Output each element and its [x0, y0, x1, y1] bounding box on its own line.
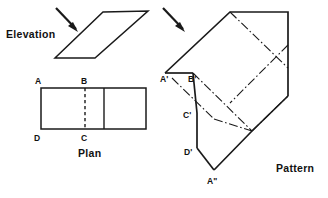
plan-label-a: A [35, 76, 41, 86]
pattern-label-b-prime: B' [188, 74, 196, 84]
pattern-label-a-prime: A' [160, 74, 168, 84]
plan-title: Plan [78, 147, 101, 159]
pattern-upper-edge [165, 12, 288, 73]
pattern-label-a-double-prime: A" [207, 176, 217, 186]
plan-label-d: D [34, 133, 40, 143]
fold-line-6 [214, 119, 252, 131]
elevation-view [55, 11, 148, 58]
pattern-bottom-edge [197, 148, 214, 170]
drawing-canvas: A B C D [0, 0, 328, 198]
pattern-title: Pattern [276, 162, 314, 174]
sheet-metal-development-figure: A B C D [0, 0, 328, 198]
pattern-label-c-prime: C' [183, 110, 191, 120]
plan-rectangle [41, 88, 146, 129]
plan-label-b: B [81, 76, 87, 86]
pattern-arrow-icon [163, 8, 185, 32]
elevation-parallelogram [55, 11, 148, 58]
fold-line-2 [193, 73, 252, 131]
plan-label-c: C [81, 133, 87, 143]
plan-view [41, 88, 146, 129]
elevation-arrow-icon [56, 8, 78, 32]
fold-line-3 [230, 45, 288, 103]
pattern-lower-right-edge [214, 96, 288, 170]
fold-line-1 [230, 12, 288, 68]
elevation-title: Elevation [6, 28, 55, 40]
pattern-label-d-prime: D' [184, 147, 192, 157]
fold-line-4 [172, 78, 214, 119]
